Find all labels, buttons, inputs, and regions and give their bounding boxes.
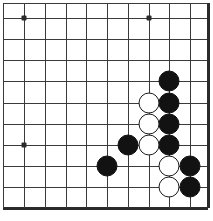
go-board-figure [0, 0, 213, 221]
grid-line-vertical-0 [3, 3, 4, 208]
black-stone[interactable] [159, 71, 180, 92]
star-point-upper-right [147, 16, 152, 21]
white-stone[interactable] [139, 93, 160, 114]
black-stone[interactable] [159, 135, 180, 156]
grid-line-vertical-3 [66, 3, 67, 208]
grid-line-vertical-5 [107, 3, 108, 208]
grid-line-vertical-10 [207, 3, 210, 208]
white-stone[interactable] [159, 156, 180, 177]
grid-line-vertical-2 [45, 3, 46, 208]
grid-line-horizontal-2 [3, 39, 208, 40]
grid-line-horizontal-3 [3, 60, 208, 61]
grid-line-vertical-1 [24, 3, 25, 208]
black-stone[interactable] [180, 156, 201, 177]
white-stone[interactable] [139, 114, 160, 135]
star-point-upper-left [22, 16, 27, 21]
black-stone[interactable] [97, 156, 118, 177]
black-stone[interactable] [118, 135, 139, 156]
go-board[interactable] [0, 0, 213, 221]
grid-line-vertical-6 [128, 3, 129, 208]
grid-line-vertical-4 [86, 3, 87, 208]
grid-line-horizontal-0 [3, 3, 208, 4]
black-stone[interactable] [159, 114, 180, 135]
star-point-lower-left [22, 143, 27, 148]
black-stone[interactable] [180, 177, 201, 198]
white-stone[interactable] [139, 135, 160, 156]
grid-line-horizontal-10 [3, 207, 208, 210]
grid-line-horizontal-1 [3, 18, 208, 19]
black-stone[interactable] [159, 93, 180, 114]
white-stone[interactable] [159, 177, 180, 198]
